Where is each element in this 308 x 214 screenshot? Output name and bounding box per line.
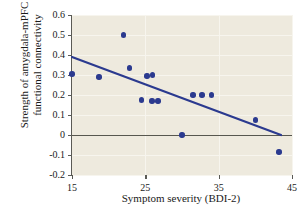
x-axis-tick: 25 <box>145 175 146 179</box>
data-point <box>144 73 149 78</box>
x-axis-tick: 15 <box>72 175 73 179</box>
data-point <box>96 74 101 79</box>
y-tick-label: 0.3 <box>53 68 66 82</box>
data-point <box>276 149 281 154</box>
gridline-vertical <box>292 15 293 175</box>
gridline-horizontal <box>72 175 292 176</box>
data-point <box>150 72 155 77</box>
plot-area: 0.60.50.40.30.20.10-0.1-0.2 15253545 <box>71 15 292 176</box>
y-tick-label: 0.5 <box>53 28 66 42</box>
data-point <box>209 92 214 97</box>
y-tick-label: 0.4 <box>53 48 66 62</box>
data-point <box>127 65 132 70</box>
data-point <box>190 92 195 97</box>
x-axis-tick: 45 <box>292 175 293 179</box>
y-tick-label: 0.1 <box>53 108 66 122</box>
data-point <box>139 97 144 102</box>
data-point <box>121 32 126 37</box>
data-point <box>149 98 154 103</box>
y-tick-label: -0.1 <box>49 148 65 162</box>
data-point <box>69 71 74 76</box>
data-point <box>179 132 184 137</box>
y-tick-label: -0.2 <box>49 168 65 182</box>
data-point <box>199 92 204 97</box>
y-tick-label: 0.2 <box>53 88 66 102</box>
y-tick-label: 0 <box>60 128 65 142</box>
x-axis-tick: 35 <box>219 175 220 179</box>
y-tick-label: 0.6 <box>53 8 66 22</box>
data-point <box>253 117 258 122</box>
y-axis-label: Strength of amygdala-mPFC functional con… <box>18 0 44 140</box>
trend-line <box>72 15 292 175</box>
data-point <box>155 98 160 103</box>
x-axis-label: Symptom severity (BDI-2) <box>71 192 291 204</box>
scatter-plot-figure: 0.60.50.40.30.20.10-0.1-0.2 15253545 Sym… <box>0 0 308 214</box>
